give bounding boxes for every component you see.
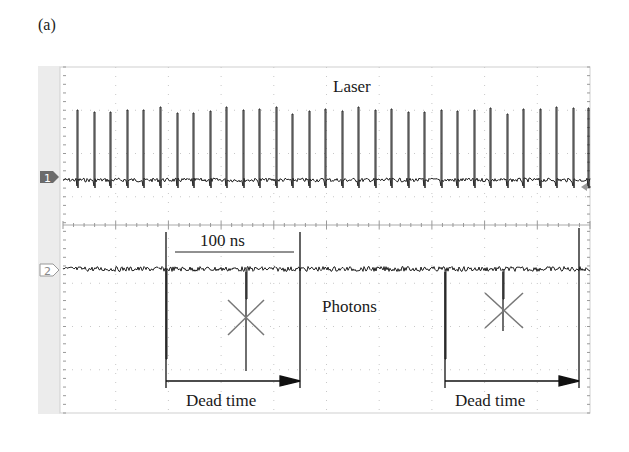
channel-1-id: 1 [44,172,51,185]
dead-time-label-2: Dead time [455,391,525,410]
dead-time-label-1: Dead time [186,391,256,410]
channel-2-id: 2 [44,265,51,278]
oscilloscope-plot: 1 2 Laser 100 ns Photons Dead time Dead … [0,0,629,452]
laser-label: Laser [333,77,371,96]
channel-marker-strip [38,66,60,414]
scale-bar-label: 100 ns [200,231,245,250]
photons-label: Photons [322,297,377,316]
